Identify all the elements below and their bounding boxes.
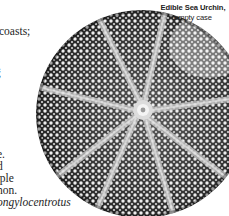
caption-title: Edible Sea Urchin,	[154, 3, 229, 13]
text-line: ;	[0, 67, 1, 80]
book-page: coasts; . ; e. d rple non. ongylocentrot…	[0, 0, 229, 216]
figure-caption: Edible Sea Urchin, empty case	[154, 3, 229, 23]
sea-urchin-illustration	[24, 6, 229, 216]
caption-subtitle: empty case	[154, 13, 229, 23]
